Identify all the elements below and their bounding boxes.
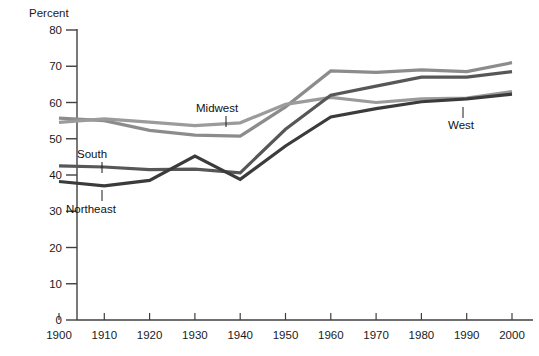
x-tick-label: 1910: [92, 329, 118, 341]
x-tick-label: 1930: [182, 329, 208, 341]
y-tick-label: 60: [49, 97, 62, 109]
x-axis-ticks: 1900191019201930194019501960197019801990…: [46, 313, 525, 341]
chart-canvas: 01020304050607080Percent1900191019201930…: [0, 0, 539, 356]
series-line-south: [59, 72, 512, 173]
x-tick-label: 1950: [273, 329, 299, 341]
y-tick-label: 70: [49, 60, 62, 72]
x-tick-label: 2000: [499, 329, 525, 341]
x-tick-label: 1980: [409, 329, 435, 341]
y-tick-label: 50: [49, 133, 62, 145]
x-tick-label: 1920: [137, 329, 163, 341]
y-tick-label: 40: [49, 169, 62, 181]
x-tick-label: 1960: [318, 329, 344, 341]
x-tick-label: 1970: [363, 329, 389, 341]
y-tick-label: 30: [49, 205, 62, 217]
series-label-west: West: [448, 119, 475, 131]
line-chart-figure: 01020304050607080Percent1900191019201930…: [0, 0, 539, 356]
x-tick-label: 1900: [46, 329, 72, 341]
y-tick-label: 10: [49, 278, 62, 290]
x-tick-label: 1940: [227, 329, 253, 341]
y-tick-label: 20: [49, 242, 62, 254]
chart-series-group: [59, 63, 512, 186]
y-tick-label: 80: [49, 24, 62, 36]
series-label-midwest: Midwest: [196, 102, 239, 114]
series-label-south: South: [77, 148, 107, 160]
series-label-northeast: Northeast: [66, 203, 117, 215]
y-axis-ticks: 01020304050607080: [49, 24, 77, 326]
y-axis-unit-label: Percent: [29, 7, 69, 19]
x-tick-label: 1990: [454, 329, 480, 341]
